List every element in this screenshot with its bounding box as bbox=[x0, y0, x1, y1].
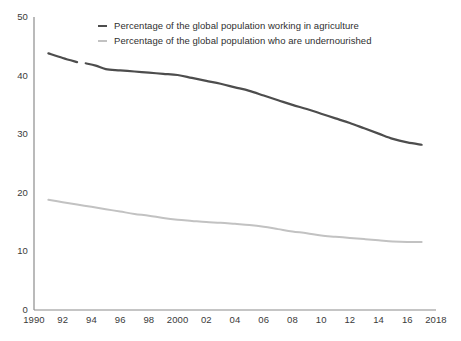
series-line-1 bbox=[48, 200, 421, 242]
series-line-0 bbox=[86, 63, 422, 144]
y-tick-label: 50 bbox=[2, 11, 28, 22]
y-tick-label: 20 bbox=[2, 187, 28, 198]
line-chart: 01020304050 1990929496982000020406081012… bbox=[0, 0, 461, 341]
y-tick-label: 10 bbox=[2, 245, 28, 256]
legend-dash-icon-undernourished bbox=[98, 40, 107, 42]
series-line-0 bbox=[48, 53, 77, 62]
legend-dash-icon-agriculture bbox=[98, 25, 107, 27]
chart-legend: Percentage of the global population work… bbox=[98, 18, 428, 48]
axis-lines bbox=[34, 17, 436, 310]
legend-item-undernourished: Percentage of the global population who … bbox=[98, 33, 428, 48]
legend-label-undernourished: Percentage of the global population who … bbox=[114, 35, 371, 46]
chart-plot-area bbox=[0, 0, 461, 341]
y-tick-label: 40 bbox=[2, 70, 28, 81]
data-series-group bbox=[48, 53, 421, 242]
legend-label-agriculture: Percentage of the global population work… bbox=[114, 20, 359, 31]
y-tick-label: 30 bbox=[2, 128, 28, 139]
legend-item-agriculture: Percentage of the global population work… bbox=[98, 18, 428, 33]
x-tick-label: 2018 bbox=[416, 314, 456, 325]
